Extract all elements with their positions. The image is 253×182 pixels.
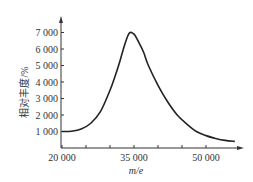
- y-tick-label: 4 000: [36, 77, 59, 88]
- y-tick-label: 5 000: [36, 60, 59, 71]
- x-axis-title: m/e: [129, 165, 144, 176]
- y-axis-title: 相对丰度/%: [18, 66, 30, 117]
- y-tick-label: 1 000: [36, 126, 59, 137]
- spectrum-curve: [62, 32, 235, 141]
- mass-spectrum-chart: 1 0002 0003 0004 0005 0006 0007 000 20 0…: [0, 0, 253, 182]
- y-tick-label: 3 000: [36, 93, 59, 104]
- y-axis: 1 0002 0003 0004 0005 0006 0007 000: [36, 16, 65, 148]
- y-tick-label: 7 000: [36, 27, 59, 38]
- x-axis: 20 00035 00050 000: [48, 145, 244, 163]
- x-tick-label: 20 000: [48, 152, 76, 163]
- y-axis-arrow-icon: [59, 16, 63, 23]
- x-tick-label: 50 000: [192, 152, 220, 163]
- y-tick-label: 2 000: [36, 110, 59, 121]
- y-tick-label: 6 000: [36, 44, 59, 55]
- x-axis-arrow-icon: [237, 146, 244, 150]
- x-tick-label: 35 000: [120, 152, 148, 163]
